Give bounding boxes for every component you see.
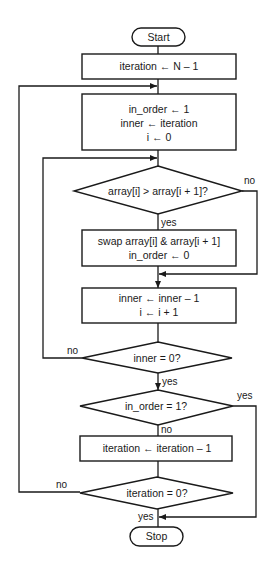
- iteration-done-no-label: no: [56, 479, 68, 490]
- init-pass-line-2: inner ← iteration: [120, 117, 197, 129]
- advance-line-1: inner ← inner – 1: [119, 292, 200, 304]
- init-pass-line-1: in_order ← 1: [129, 103, 190, 115]
- stop-label: Stop: [146, 530, 168, 542]
- inner-done-text: inner = 0?: [134, 352, 181, 364]
- init-iteration-text: iteration ← N – 1: [120, 60, 199, 72]
- init-pass-line-3: i ← 0: [147, 131, 172, 143]
- iteration-done-yes-label: yes: [138, 511, 154, 522]
- bubble-sort-flowchart: Start iteration ← N – 1 in_order ← 1 inn…: [0, 0, 274, 567]
- compare-no-label: no: [244, 175, 256, 186]
- in-order-yes-label: yes: [237, 390, 253, 401]
- swap-line-1: swap array[i] & array[i + 1]: [98, 235, 220, 247]
- compare-text: array[i] > array[i + 1]?: [108, 185, 208, 197]
- in-order-no-label: no: [161, 424, 173, 435]
- iteration-done-text: iteration = 0?: [126, 487, 187, 499]
- decrement-text: iteration ← iteration – 1: [103, 442, 212, 454]
- advance-line-2: i ← i + 1: [140, 306, 179, 318]
- compare-yes-label: yes: [161, 217, 177, 228]
- swap-line-2: in_order ← 0: [129, 249, 190, 261]
- inner-done-yes-label: yes: [162, 376, 178, 387]
- start-label: Start: [147, 31, 169, 43]
- in-order-text: in_order = 1?: [125, 400, 187, 412]
- inner-done-no-label: no: [67, 345, 79, 356]
